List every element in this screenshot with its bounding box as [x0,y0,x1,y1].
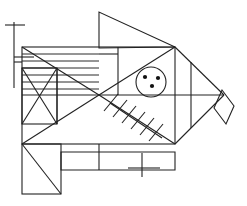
canvas-background [0,0,247,206]
geometric-fish-figure [0,0,247,206]
eye-dot-left [143,75,147,79]
eye-dot-right [156,76,160,80]
eye-dot-bottom [150,84,154,88]
